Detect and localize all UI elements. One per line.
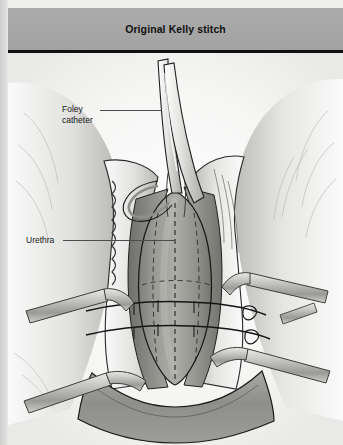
leader-line-foley-catheter <box>100 110 162 111</box>
leader-line-urethra <box>63 240 175 241</box>
label-foley-catheter: Foley catheter <box>62 104 93 125</box>
illustration-canvas <box>8 53 343 445</box>
scan-gutter-strip <box>0 0 8 445</box>
page-title: Original Kelly stitch <box>8 8 343 50</box>
label-urethra: Urethra <box>26 235 54 246</box>
title-rule <box>8 50 343 53</box>
illustration-page: the dissection is carried laterally of t… <box>0 0 343 445</box>
medical-illustration <box>8 53 343 445</box>
